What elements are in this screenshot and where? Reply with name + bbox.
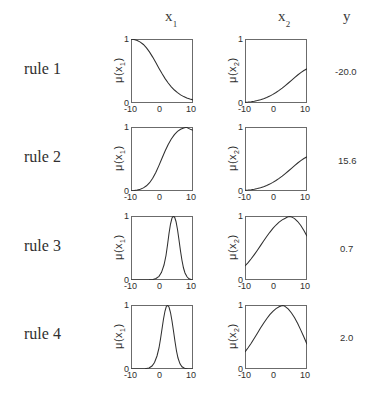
xtick-max: 10: [186, 192, 196, 202]
plot-rule-2-x2: 1 0 μ(x2) -10 0 10: [245, 127, 307, 191]
xtick-labels: -10 0 10: [121, 370, 203, 382]
ylabel-mu: μ(x: [226, 243, 238, 260]
curve-rule-3-x2: [245, 216, 307, 280]
xtick-min: -10: [238, 192, 251, 202]
xtick-min: -10: [124, 104, 137, 114]
ylabel-sub: 2: [233, 61, 240, 65]
xtick-mid: 0: [157, 281, 162, 291]
xtick-max: 10: [186, 104, 196, 114]
ylabel-mu: μ(x: [226, 154, 238, 171]
plot-rule-1-x2: 1 0 μ(x2) -10 0 10: [245, 39, 307, 103]
xtick-max: 10: [300, 104, 310, 114]
ylabel-close: ): [112, 323, 124, 327]
column-header-x1-subscript: 1: [173, 19, 178, 29]
ylabel-close: ): [112, 234, 124, 238]
xtick-mid: 0: [271, 281, 276, 291]
consequent-value-rule-1: -20.0: [335, 66, 357, 77]
xtick-mid: 0: [271, 192, 276, 202]
ylabel-mu-x1: μ(x1): [112, 304, 126, 368]
rule-label-1: rule 1: [24, 60, 61, 78]
xtick-labels: -10 0 10: [121, 192, 203, 204]
xtick-mid: 0: [157, 104, 162, 114]
ylabel-mu: μ(x: [112, 154, 124, 171]
column-header-y: y: [343, 8, 351, 25]
xtick-min: -10: [124, 192, 137, 202]
curve-rule-1-x2: [245, 39, 307, 103]
ylabel-close: ): [226, 323, 238, 327]
xtick-labels: -10 0 10: [121, 104, 203, 116]
ylabel-mu-x2: μ(x2): [226, 126, 240, 190]
curve-rule-4-x2: [245, 305, 307, 369]
plot-rule-3-x1: 1 0 μ(x1) -10 0 10: [131, 216, 193, 280]
xtick-min: -10: [238, 104, 251, 114]
ylabel-sub: 2: [233, 327, 240, 331]
consequent-value-rule-3: 0.7: [340, 243, 353, 254]
plot-rule-1-x1: 1 0 μ(x1) -10 0 10: [131, 39, 193, 103]
ylabel-close: ): [226, 234, 238, 238]
xtick-mid: 0: [157, 192, 162, 202]
curve-rule-2-x2: [245, 127, 307, 191]
ylabel-sub: 1: [119, 238, 126, 242]
column-header-x2-base: x: [278, 8, 286, 24]
xtick-mid: 0: [271, 104, 276, 114]
consequent-value-rule-4: 2.0: [340, 332, 353, 343]
plot-rule-4-x2: 1 0 μ(x2) -10 0 10: [245, 305, 307, 369]
rule-label-3: rule 3: [24, 237, 61, 255]
curve-rule-1-x1: [131, 39, 193, 103]
ylabel-mu: μ(x: [112, 243, 124, 260]
ylabel-mu: μ(x: [112, 332, 124, 349]
plot-rule-3-x2: 1 0 μ(x2) -10 0 10: [245, 216, 307, 280]
ylabel-mu: μ(x: [112, 66, 124, 83]
column-header-x2-subscript: 2: [286, 19, 291, 29]
xtick-min: -10: [124, 370, 137, 380]
ylabel-mu: μ(x: [226, 66, 238, 83]
xtick-mid: 0: [157, 370, 162, 380]
ylabel-mu-x2: μ(x2): [226, 215, 240, 279]
curve-rule-3-x1: [131, 216, 193, 280]
xtick-mid: 0: [271, 370, 276, 380]
ylabel-mu-x1: μ(x1): [112, 126, 126, 190]
xtick-labels: -10 0 10: [235, 281, 317, 293]
ylabel-mu-x1: μ(x1): [112, 38, 126, 102]
column-header-x1: x1: [165, 8, 177, 27]
ylabel-mu-x1: μ(x1): [112, 215, 126, 279]
ylabel-sub: 1: [119, 149, 126, 153]
xtick-max: 10: [186, 370, 196, 380]
rule-label-4: rule 4: [24, 325, 61, 343]
ylabel-sub: 2: [233, 149, 240, 153]
xtick-max: 10: [300, 281, 310, 291]
rule-label-2: rule 2: [24, 148, 61, 166]
plot-rule-4-x1: 1 0 μ(x1) -10 0 10: [131, 305, 193, 369]
xtick-labels: -10 0 10: [235, 370, 317, 382]
xtick-max: 10: [186, 281, 196, 291]
ylabel-close: ): [226, 57, 238, 61]
xtick-labels: -10 0 10: [235, 104, 317, 116]
curve-rule-2-x1: [131, 127, 193, 191]
xtick-min: -10: [238, 281, 251, 291]
xtick-labels: -10 0 10: [121, 281, 203, 293]
xtick-labels: -10 0 10: [235, 192, 317, 204]
curve-rule-4-x1: [131, 305, 193, 369]
ylabel-mu-x2: μ(x2): [226, 38, 240, 102]
xtick-max: 10: [300, 370, 310, 380]
ylabel-close: ): [226, 145, 238, 149]
ylabel-mu-x2: μ(x2): [226, 304, 240, 368]
consequent-value-rule-2: 15.6: [338, 155, 357, 166]
ylabel-sub: 2: [233, 238, 240, 242]
plot-rule-2-x1: 1 0 μ(x1) -10 0 10: [131, 127, 193, 191]
xtick-min: -10: [238, 370, 251, 380]
ylabel-sub: 1: [119, 61, 126, 65]
xtick-max: 10: [300, 192, 310, 202]
ylabel-close: ): [112, 57, 124, 61]
column-header-x1-base: x: [165, 8, 173, 24]
ylabel-mu: μ(x: [226, 332, 238, 349]
ylabel-sub: 1: [119, 327, 126, 331]
fuzzy-rule-figure: x1 x2 y rule 1 rule 2 rule 3 rule 4 -20.…: [0, 0, 367, 413]
column-header-x2: x2: [278, 8, 290, 27]
ylabel-close: ): [112, 145, 124, 149]
xtick-min: -10: [124, 281, 137, 291]
